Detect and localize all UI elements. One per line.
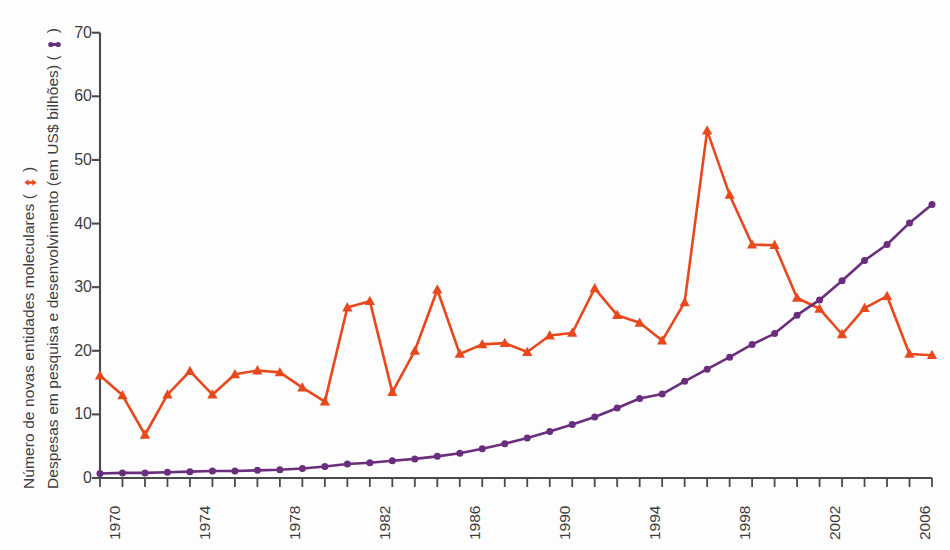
data-point-marker xyxy=(141,469,148,476)
data-point-marker xyxy=(659,391,666,398)
data-point-marker xyxy=(299,465,306,472)
data-point-marker xyxy=(321,463,328,470)
data-point-marker xyxy=(906,219,913,226)
data-point-marker xyxy=(569,421,576,428)
data-point-marker xyxy=(724,190,734,199)
data-point-marker xyxy=(749,341,756,348)
data-point-marker xyxy=(456,450,463,457)
data-point-marker xyxy=(411,455,418,462)
data-point-marker xyxy=(929,201,936,208)
data-point-marker xyxy=(479,445,486,452)
data-point-marker xyxy=(839,277,846,284)
series-line xyxy=(100,204,932,473)
data-point-marker xyxy=(501,440,508,447)
data-point-marker xyxy=(366,459,373,466)
data-point-marker xyxy=(344,461,351,468)
data-point-marker xyxy=(591,413,598,420)
data-point-marker xyxy=(704,366,711,373)
series-line xyxy=(100,131,932,435)
data-point-marker xyxy=(524,434,531,441)
data-point-marker xyxy=(432,284,442,293)
data-point-marker xyxy=(681,378,688,385)
chart-figure: Número de novas entidades moleculares ( … xyxy=(0,0,950,550)
data-point-marker xyxy=(861,257,868,264)
data-point-marker xyxy=(636,395,643,402)
data-point-marker xyxy=(794,312,801,319)
data-point-marker xyxy=(410,345,420,354)
data-point-marker xyxy=(882,291,892,300)
data-point-marker xyxy=(185,366,195,375)
data-point-marker xyxy=(231,468,238,475)
data-point-marker xyxy=(95,370,105,379)
data-point-marker xyxy=(702,125,712,134)
data-point-marker xyxy=(254,467,261,474)
data-point-marker xyxy=(771,330,778,337)
data-point-marker xyxy=(389,457,396,464)
data-point-marker xyxy=(209,468,216,475)
data-point-marker xyxy=(884,241,891,248)
data-point-marker xyxy=(792,293,802,302)
data-point-marker xyxy=(186,468,193,475)
series-rd xyxy=(97,201,936,477)
data-point-marker xyxy=(590,283,600,292)
data-point-marker xyxy=(119,469,126,476)
data-point-marker xyxy=(680,297,690,306)
series-nme xyxy=(95,125,937,438)
data-point-marker xyxy=(726,354,733,361)
plot-area xyxy=(0,0,950,550)
data-point-marker xyxy=(97,470,104,477)
data-point-marker xyxy=(434,453,441,460)
data-series xyxy=(95,125,937,477)
axes xyxy=(92,33,932,487)
data-point-marker xyxy=(614,405,621,412)
data-point-marker xyxy=(816,296,823,303)
data-point-marker xyxy=(365,296,375,305)
data-point-marker xyxy=(164,469,171,476)
data-point-marker xyxy=(546,428,553,435)
data-point-marker xyxy=(276,466,283,473)
